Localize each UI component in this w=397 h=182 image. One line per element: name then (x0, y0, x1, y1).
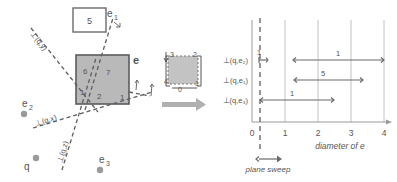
plane-sweep-arrow-head (277, 156, 282, 163)
plane-sweep-annotation: plane sweep (245, 156, 291, 175)
chart-xtick-2: 2 (316, 128, 321, 138)
point-e1-sub: 1 (114, 14, 118, 21)
box-5-label: 5 (87, 16, 92, 26)
interval-bar-row0-b-value: 1 (336, 49, 340, 58)
interval-bar-row2: 1 (260, 89, 334, 103)
quadrant-label-6: 6 (83, 67, 88, 76)
chart-xtick-4: 4 (382, 128, 387, 138)
left-panel: 5 e 6 7 1 2 1 ⊥(q,y) ⊥(q,x) ⊥(q,z) (21, 8, 154, 173)
interval-bar-row2-value: 1 (290, 89, 294, 98)
chart-x-axis-title: diameter of e (315, 141, 365, 151)
point-e2-dot (21, 111, 27, 117)
bisector-label-qx: ⊥(q,x) (34, 113, 58, 128)
quadrant-label-7: 7 (106, 68, 111, 77)
point-e1: e 1 (107, 8, 118, 21)
inset-diagram: 3 2 4 0 1 (164, 51, 201, 93)
transition-arrow-shape (162, 98, 206, 111)
inset-label-1: 1 (195, 80, 199, 87)
plane-sweep-arrow-tail (256, 157, 259, 162)
interval-bar-row0-a-value: 1 (257, 48, 261, 57)
chart-xtick-3: 3 (349, 128, 354, 138)
figure-svg: 5 e 6 7 1 2 1 ⊥(q,y) ⊥(q,x) ⊥(q,z) (0, 0, 397, 182)
bisector-line-right (129, 92, 150, 96)
arrow-e1-stem (114, 22, 120, 27)
point-e3-sub: 3 (106, 160, 110, 167)
chart-xtick-0: 0 (250, 128, 255, 138)
transition-arrow-icon (162, 98, 206, 111)
inset-label-3: 3 (170, 51, 174, 58)
chart-ylabel-0: ⊥(q,e₂) (223, 56, 249, 65)
point-q-dot (33, 155, 39, 161)
interval-bar-row0-b: 1 (293, 49, 384, 63)
inset-label-0: 0 (178, 86, 182, 93)
figure-root: 5 e 6 7 1 2 1 ⊥(q,y) ⊥(q,x) ⊥(q,z) (0, 0, 397, 182)
point-q: q (24, 155, 39, 172)
chart-ylabel-2: ⊥(q,e₃) (223, 96, 249, 105)
chart-xtick-1: 1 (283, 128, 288, 138)
right-panel-chart: ⊥(q,e₂) ⊥(q,e₁) ⊥(q,e₃) 1 1 5 (223, 18, 392, 174)
point-e3-dot (97, 167, 103, 173)
axis-x-arrowhead (386, 120, 392, 125)
bisector-label-qy: ⊥(q,y) (28, 30, 49, 53)
plane-sweep-label: plane sweep (245, 165, 291, 174)
quadrant-label-2: 2 (97, 92, 102, 101)
point-e2: e 2 (21, 98, 33, 117)
point-e3: e 3 (97, 154, 110, 173)
interval-bar-row0-a: 1 (257, 48, 268, 63)
inset-label-2: 2 (193, 51, 197, 58)
point-q-label: q (24, 161, 30, 172)
interval-bar-row1: 5 (294, 69, 363, 83)
chart-ylabel-1: ⊥(q,e₁) (223, 76, 248, 85)
point-e2-label: e (22, 98, 28, 109)
point-e3-label: e (99, 154, 105, 165)
point-e2-sub: 2 (29, 104, 33, 111)
rect-e-label: e (133, 54, 139, 66)
inset-arrow-down (164, 52, 168, 62)
inset-label-4: 4 (164, 78, 168, 85)
inset-rect (168, 56, 198, 84)
bisector-label-qz: ⊥(q,z) (55, 139, 70, 163)
interval-bar-row1-value: 5 (321, 69, 325, 78)
point-e1-label: e (107, 8, 113, 19)
